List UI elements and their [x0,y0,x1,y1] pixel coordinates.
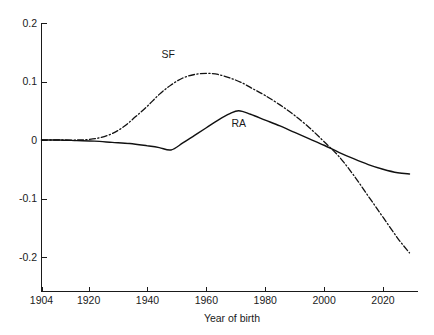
x-axis-ticks: 1904192019401960198020002020 [30,287,395,307]
x-axis-title: Year of birth [204,312,260,324]
x-tick-label: 1940 [136,294,160,306]
x-tick-label: 1960 [195,294,219,306]
series-line-sf [42,73,410,253]
y-tick-label: 0.1 [22,75,37,87]
chart-figure: 0.20.10-0.1-0.2 190419201940196019802000… [0,0,434,335]
series-label-sf: SF [161,48,174,60]
series-line-ra [42,111,410,174]
x-tick-label: 1904 [30,294,54,306]
y-tick-label: -0.2 [19,251,37,263]
y-tick-label: 0.2 [22,17,37,29]
x-tick-label: 1980 [254,294,278,306]
y-tick-label: 0 [31,134,37,146]
x-tick-label: 2020 [371,294,395,306]
line-chart: 0.20.10-0.1-0.2 190419201940196019802000… [0,0,434,335]
x-tick-label: 2000 [312,294,336,306]
x-tick-label: 1920 [77,294,101,306]
series-label-ra: RA [231,117,246,129]
series-annotations: SFRA [161,48,246,128]
y-tick-label: -0.1 [19,192,37,204]
series-group [42,73,410,253]
